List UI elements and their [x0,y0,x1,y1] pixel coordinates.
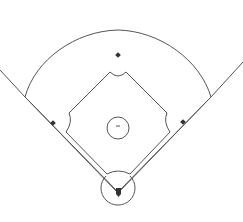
second-base [115,52,121,58]
third-base [50,120,56,126]
baseball-field-diagram [0,0,243,222]
foul-line-right [118,62,243,193]
infield-diamond [66,72,170,174]
outfield-arc [25,30,211,97]
pitchers-mound [107,117,129,139]
foul-line-left [0,70,118,193]
home-plate [116,188,121,197]
